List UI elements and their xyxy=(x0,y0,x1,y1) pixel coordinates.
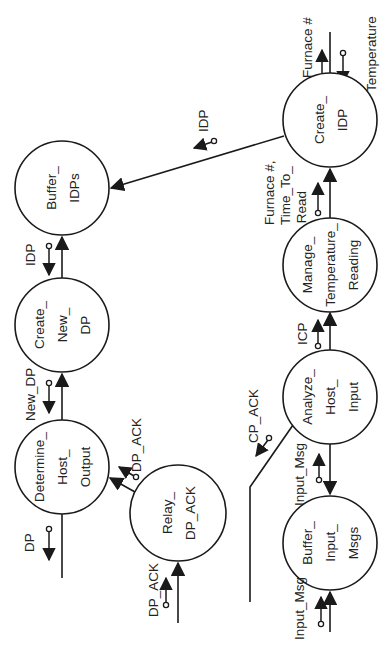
node-label: Buffer_ xyxy=(300,521,315,565)
node-label: IDP xyxy=(335,109,350,132)
node-buffer-input-msgs: Buffer_ Input_ Msgs xyxy=(283,496,377,590)
node-create-idp: Create_ IDP xyxy=(283,73,377,167)
node-determine-host-output: Determine_ Host_ Output xyxy=(15,420,109,514)
label-temperature: Temperature xyxy=(364,16,379,92)
analyze-external-line xyxy=(250,425,293,602)
couple-idp-create-to-buffer xyxy=(194,138,217,148)
node-label: Relay_ xyxy=(160,492,175,535)
node-create-new-dp: Create_ New_ DP xyxy=(15,278,109,372)
node-label: Create_ xyxy=(32,300,47,349)
relay-to-determine-line xyxy=(110,478,135,492)
label-input-msg-between: Input_Msg xyxy=(292,443,307,506)
node-analyze-host-input: Analyze_ Host_ Input xyxy=(283,350,377,444)
node-label: Output xyxy=(78,446,93,487)
node-label: DP xyxy=(78,316,93,335)
couple-input-msg-between xyxy=(316,454,321,483)
node-manage-temperature-reading: Manage_ Temperature_ Reading xyxy=(283,218,377,312)
node-label: DP_ACK xyxy=(183,486,198,540)
node-relay-dp-ack: Relay_ DP_ACK xyxy=(130,465,226,561)
node-label: Analyze_ xyxy=(300,369,315,425)
node-label: Input xyxy=(346,382,361,412)
label-dp-ack-in: DP_ACK xyxy=(146,563,161,617)
node-label: Host_ xyxy=(55,449,70,485)
node-buffer-idps: Buffer_ IDPs xyxy=(15,141,109,235)
label-input-msg-in: Input_Msg xyxy=(292,577,307,640)
label-idp-buffer-to-newdp: IDP xyxy=(23,243,38,266)
node-label: Temperature_ xyxy=(323,223,338,307)
label-line: Furnace #, xyxy=(262,160,277,225)
label-dp-ack-relay: DP_ACK xyxy=(129,418,144,472)
node-label: Msgs xyxy=(346,527,361,560)
label-cp-ack: CP_ACK xyxy=(246,389,261,443)
label-new-dp: New_DP xyxy=(23,368,38,421)
create-idp-to-buffer-idps-line xyxy=(111,136,284,188)
label-line: Read xyxy=(294,191,309,223)
node-label: Reading xyxy=(346,240,361,290)
couple-idp-buffer-to-newdp xyxy=(46,243,51,275)
label-furnace-time-to-read: Furnace #, Time_To_ Read xyxy=(262,160,309,225)
node-label: New_ xyxy=(55,307,70,342)
couple-icp xyxy=(315,320,320,349)
node-label: Determine_ xyxy=(32,432,47,502)
node-label: Input_ xyxy=(323,524,338,562)
couple-dp-ack-in xyxy=(163,578,168,608)
label-idp-create-to-buffer: IDP xyxy=(196,109,211,132)
couple-input-msg-in xyxy=(318,597,323,627)
node-label: IDPs xyxy=(67,173,82,203)
couple-new-dp xyxy=(46,380,51,413)
couple-dp-out xyxy=(46,526,51,560)
label-furnace-no: Furnace # xyxy=(300,17,315,78)
structure-chart-diagram: Buffer_ IDPs Create_ IDP Create_ New_ DP… xyxy=(0,0,392,653)
label-line: Time_To_ xyxy=(278,166,293,225)
node-label: Create_ xyxy=(312,95,327,144)
label-dp-out: DP xyxy=(22,533,37,552)
node-label: Manage_ xyxy=(300,236,315,293)
node-label: Host_ xyxy=(323,379,338,415)
label-icp: ICP xyxy=(295,322,310,345)
couple-furnace-time-to-read xyxy=(315,183,320,216)
node-label: Buffer_ xyxy=(44,166,59,210)
